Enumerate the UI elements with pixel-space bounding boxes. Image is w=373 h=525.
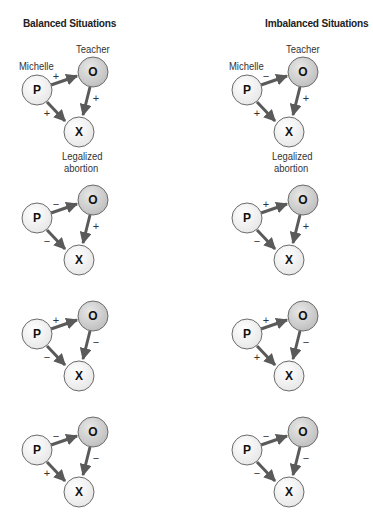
sign-ox: −: [303, 336, 309, 348]
sign-px: −: [254, 467, 260, 479]
node-p: P: [33, 327, 41, 341]
node-x: X: [75, 485, 83, 499]
sign-po: +: [263, 314, 269, 326]
node-o: O: [88, 309, 97, 323]
sign-po: +: [53, 314, 59, 326]
balanced-diagram-4: P O X − − +: [22, 417, 108, 507]
balanced-diagram-3: P O X + − −: [22, 301, 108, 391]
imbalanced-diagram-1: P O X − + +: [232, 57, 318, 147]
node-x: X: [75, 253, 83, 267]
node-o: O: [88, 425, 97, 439]
sign-po: −: [53, 198, 59, 210]
node-o: O: [298, 309, 307, 323]
node-o: O: [88, 193, 97, 207]
sign-ox: +: [303, 92, 309, 104]
sign-px: −: [254, 235, 260, 247]
sign-px: −: [44, 235, 50, 247]
node-p: P: [243, 327, 251, 341]
node-o: O: [88, 65, 97, 79]
node-x: X: [285, 253, 293, 267]
sign-po: −: [53, 430, 59, 442]
node-x: X: [285, 125, 293, 139]
node-p: P: [33, 83, 41, 97]
sign-ox: −: [93, 336, 99, 348]
imbalanced-diagram-4: P O X − − −: [232, 417, 318, 507]
node-o: O: [298, 425, 307, 439]
pox-diagrams: P O X + + + P O X − + − P O X + − −: [0, 0, 373, 525]
sign-po: −: [263, 70, 269, 82]
sign-po: −: [263, 430, 269, 442]
sign-ox: +: [303, 220, 309, 232]
sign-ox: −: [93, 452, 99, 464]
sign-px: +: [254, 107, 260, 119]
node-o: O: [298, 193, 307, 207]
imbalanced-diagram-3: P O X + − +: [232, 301, 318, 391]
node-x: X: [285, 369, 293, 383]
balanced-diagram-2: P O X − + −: [22, 185, 108, 275]
sign-po: +: [263, 198, 269, 210]
sign-ox: +: [93, 92, 99, 104]
node-x: X: [75, 369, 83, 383]
node-x: X: [285, 485, 293, 499]
sign-po: +: [53, 70, 59, 82]
node-p: P: [243, 211, 251, 225]
sign-px: −: [44, 351, 50, 363]
node-o: O: [298, 65, 307, 79]
sign-ox: +: [93, 220, 99, 232]
balanced-diagram-1: P O X + + +: [22, 57, 108, 147]
imbalanced-diagram-2: P O X + + −: [232, 185, 318, 275]
node-p: P: [243, 443, 251, 457]
sign-px: +: [44, 467, 50, 479]
sign-px: +: [44, 107, 50, 119]
node-p: P: [243, 83, 251, 97]
sign-ox: −: [303, 452, 309, 464]
node-p: P: [33, 443, 41, 457]
node-p: P: [33, 211, 41, 225]
sign-px: +: [254, 351, 260, 363]
node-x: X: [75, 125, 83, 139]
